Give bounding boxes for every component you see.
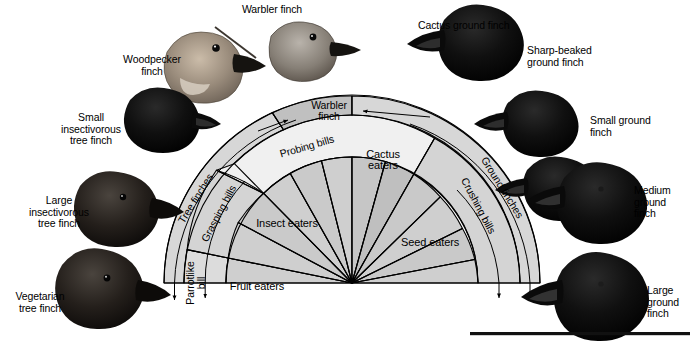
label-large-ground-finch: Large ground finch [647, 285, 690, 320]
label-small-insectivorous-tree-finch: Small insectivorous tree finch [55, 112, 127, 147]
figure-canvas: Warbler finch Woodpecker finch Small ins… [0, 0, 690, 345]
label-small-ground-finch: Small ground finch [590, 115, 676, 138]
label-warbler-finch: Warbler finch [224, 4, 320, 16]
label-cactus-eaters: Cactus eaters [355, 149, 411, 171]
bottom-rule [470, 332, 690, 335]
label-sharp-beaked-ground-finch: Sharp-beaked ground finch [527, 45, 627, 68]
bird-warbler-finch [269, 22, 361, 82]
label-cactus-ground-finch: Cactus ground finch [418, 20, 548, 32]
bird-cactus-ground-finch [407, 5, 524, 81]
label-fruit-eaters: Fruit eaters [216, 281, 298, 293]
label-vegetarian-tree-finch: Vegetarian tree finch [2, 291, 78, 314]
label-woodpecker-finch: Woodpecker finch [112, 54, 192, 77]
label-parrotlike-bill: Parrotlike bill [185, 252, 207, 314]
label-large-insectivorous-tree-finch: Large insectivorous tree finch [22, 195, 96, 230]
label-seed-eaters: Seed eaters [390, 237, 470, 249]
bird-large-ground-finch [521, 252, 649, 341]
bird-sharp-beaked-ground-finch [474, 91, 579, 158]
label-warbler-finch-box: Warbler finch [300, 100, 358, 122]
label-insect-eaters: Insect eaters [245, 218, 329, 230]
label-medium-ground-finch: Medium ground finch [634, 185, 690, 220]
bird-vegetarian-tree-finch [55, 248, 171, 329]
